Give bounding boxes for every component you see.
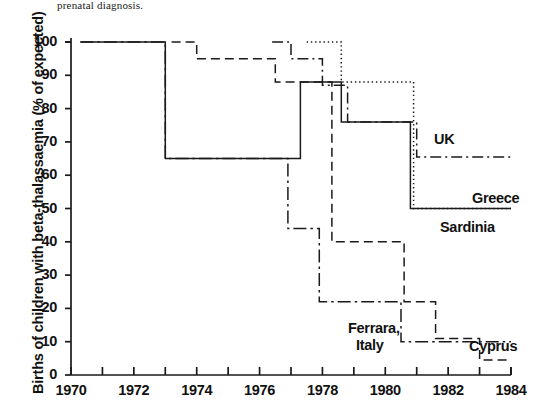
y-tick-label: 30 [17,266,57,282]
y-tick-label: 80 [17,100,57,116]
series-label-ferrara: Ferrara, [348,320,400,336]
series-label-uk: UK [434,131,454,147]
series-line-ferrara-italy [80,42,511,342]
y-tick-label: 50 [17,200,57,216]
x-tick-label: 1982 [418,382,478,398]
series-label-ferrara-italy: Italy [356,337,384,353]
x-tick-label: 1970 [41,382,101,398]
series-line-greece [307,42,511,209]
x-tick-label: 1980 [355,382,415,398]
x-tick-label: 1984 [481,382,537,398]
series-label-sardinia: Sardinia [440,219,495,235]
chart-plot [0,0,537,401]
y-tick-label: 20 [17,299,57,315]
x-tick-label: 1976 [230,382,290,398]
y-tick-label: 40 [17,233,57,249]
y-tick-label: 10 [17,333,57,349]
x-tick-label: 1978 [292,382,352,398]
y-tick-label: 90 [17,66,57,82]
y-tick-label: 0 [17,366,57,382]
series-line-uk [272,42,511,157]
y-tick-label: 60 [17,166,57,182]
y-tick-label: 100 [17,33,57,49]
x-tick-label: 1972 [104,382,164,398]
series-label-cyprus: Cyprus [469,338,517,354]
x-tick-label: 1974 [167,382,227,398]
y-tick-label: 70 [17,133,57,149]
series-paths [80,42,511,360]
series-line-sardinia [80,42,511,209]
series-label-greece: Greece [472,190,519,206]
